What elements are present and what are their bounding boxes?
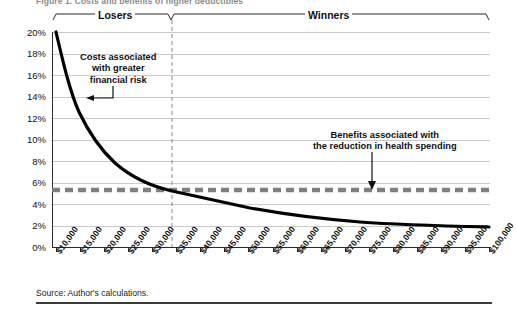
bracket-label-winners: Winners bbox=[305, 9, 352, 21]
annotation-costs-line1: Costs associated bbox=[80, 52, 156, 63]
annotation-benefits-line2: the reduction in health spending bbox=[313, 141, 457, 152]
bracket-label-losers: Losers bbox=[95, 9, 135, 21]
annotation-costs-line3: financial risk bbox=[80, 75, 156, 86]
costs-leader bbox=[86, 86, 113, 101]
annotation-benefits-line1: Benefits associated with bbox=[313, 130, 457, 141]
annotation-benefits: Benefits associated with the reduction i… bbox=[313, 130, 457, 153]
annotation-costs: Costs associated with greater financial … bbox=[80, 52, 156, 86]
bottom-rule bbox=[36, 302, 492, 304]
annotation-costs-line2: with greater bbox=[80, 63, 156, 74]
source-note: Source: Author's calculations. bbox=[36, 288, 148, 298]
benefits-leader bbox=[368, 152, 376, 190]
